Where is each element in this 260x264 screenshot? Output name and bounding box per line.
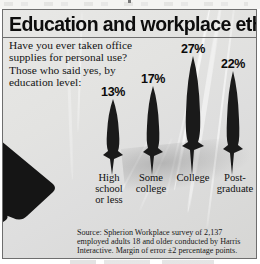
bar-value-label: 13% bbox=[101, 85, 125, 99]
infographic-panel: Education and workplace ethics Have you … bbox=[0, 0, 260, 264]
chart-plot-area: 13% 17% 27% bbox=[91, 30, 251, 175]
category-label-some-college: Some college bbox=[129, 173, 173, 195]
bar-group-high-school: 13% bbox=[93, 75, 133, 175]
source-line: Interactive. Margin of error ±2 percenta… bbox=[77, 246, 255, 255]
bar-group-some-college: 17% bbox=[133, 62, 173, 175]
page-top-strip bbox=[0, 0, 260, 9]
crop-tick-mark bbox=[128, 0, 131, 3]
chart-category-labels: High school or less Some college College… bbox=[91, 173, 257, 205]
source-line: employed adults 18 and older conducted b… bbox=[77, 237, 255, 246]
bar-pen-nib-icon bbox=[180, 56, 206, 175]
ghost-text-line bbox=[4, 2, 248, 6]
category-label-post-graduate: Post- graduate bbox=[209, 173, 257, 195]
bar-group-post-graduate: 22% bbox=[213, 47, 253, 175]
bar-value-label: 17% bbox=[141, 72, 165, 86]
bar-pen-nib-icon bbox=[221, 71, 245, 175]
bar-value-label: 27% bbox=[181, 42, 205, 56]
chart-panel: Education and workplace ethics Have you … bbox=[2, 9, 257, 259]
category-line: college bbox=[129, 184, 173, 195]
category-line: or less bbox=[87, 195, 131, 206]
category-line: school bbox=[87, 184, 131, 195]
bar-pen-nib-icon bbox=[101, 99, 125, 175]
source-line: Source: Spherion Workplace survey of 2,1… bbox=[77, 228, 255, 237]
pen-nib-illustration-icon bbox=[2, 106, 97, 236]
page-bottom-ghost-text bbox=[0, 260, 260, 264]
category-label-high-school: High school or less bbox=[87, 173, 131, 205]
chart-source-note: Source: Spherion Workplace survey of 2,1… bbox=[77, 228, 255, 256]
bar-group-college: 27% bbox=[173, 32, 213, 175]
bar-pen-nib-icon bbox=[141, 86, 165, 175]
bar-value-label: 22% bbox=[221, 57, 245, 71]
category-line: graduate bbox=[209, 184, 257, 195]
